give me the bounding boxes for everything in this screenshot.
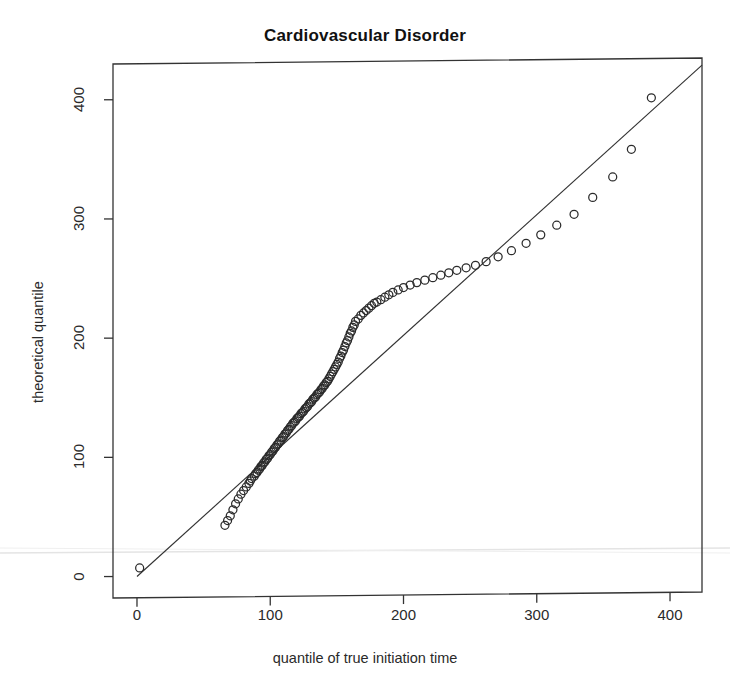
data-point [482, 258, 490, 266]
data-point [437, 271, 445, 279]
y-tick-label: 300 [70, 195, 87, 241]
plot-canvas [0, 0, 730, 697]
axis-tick-marks [104, 100, 670, 607]
data-point [627, 145, 635, 153]
x-tick-label: 400 [647, 606, 693, 623]
x-tick-label: 200 [381, 606, 427, 623]
data-point [537, 231, 545, 239]
data-point [522, 239, 530, 247]
data-point [234, 495, 242, 503]
data-point [224, 517, 232, 525]
data-point [429, 274, 437, 282]
reference-line [137, 65, 702, 576]
data-point-group [136, 94, 656, 572]
y-tick-label: 400 [70, 76, 87, 122]
data-point [609, 173, 617, 181]
x-tick-label: 300 [514, 606, 560, 623]
scan-artifact-lines [0, 548, 730, 553]
data-point [136, 564, 144, 572]
data-point [453, 266, 461, 274]
data-point [589, 193, 597, 201]
data-point [570, 210, 578, 218]
y-tick-label: 0 [70, 553, 87, 599]
data-point [553, 221, 561, 229]
data-point [462, 264, 470, 272]
data-point [445, 269, 453, 277]
x-tick-label: 0 [114, 606, 160, 623]
y-tick-label: 200 [70, 315, 87, 361]
data-point [494, 253, 502, 261]
data-point [471, 261, 479, 269]
data-point [507, 247, 515, 255]
data-point [421, 276, 429, 284]
qq-plot-figure: Cardiovascular Disorder quantile of true… [0, 0, 730, 697]
data-point [221, 521, 229, 529]
data-point [647, 94, 655, 102]
y-tick-label: 100 [70, 434, 87, 480]
plot-frame [113, 58, 702, 598]
x-tick-label: 100 [247, 606, 293, 623]
